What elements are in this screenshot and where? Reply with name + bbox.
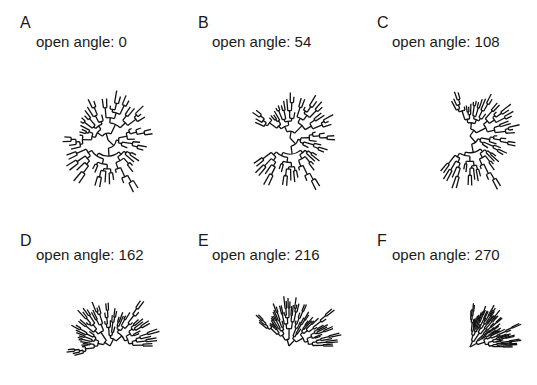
tip-branch: [138, 114, 141, 117]
panel-d: D open angle: 162: [20, 232, 160, 355]
tip-branch: [284, 101, 286, 110]
tip-branch: [129, 128, 132, 129]
tip-branch: [295, 321, 296, 324]
tip-branch: [269, 175, 274, 185]
tip-branch: [66, 160, 76, 166]
internal-branch: [473, 161, 474, 166]
node-arc: [268, 120, 272, 126]
tip-branch: [269, 118, 271, 120]
node-arc: [136, 130, 137, 134]
node-arc: [92, 107, 95, 108]
internal-branch: [291, 316, 292, 322]
internal-branch: [291, 322, 292, 329]
tip-branch: [133, 142, 140, 143]
internal-branch: [120, 105, 124, 114]
internal-branch: [116, 163, 118, 169]
tip-branch: [130, 163, 133, 166]
tip-branch: [79, 132, 85, 134]
internal-branch: [260, 116, 264, 119]
node-arc: [129, 130, 130, 134]
tip-branch: [126, 101, 129, 107]
internal-branch: [321, 337, 329, 339]
panel-label-b: B: [198, 14, 209, 31]
internal-branch: [296, 338, 303, 342]
tip-branch: [496, 178, 501, 186]
internal-branch: [128, 175, 132, 181]
internal-branch: [290, 138, 296, 144]
internal-branch: [310, 110, 317, 117]
internal-branch: [462, 111, 465, 120]
tip-branch: [115, 91, 117, 103]
tip-branch: [314, 143, 321, 145]
tip-branch: [318, 150, 324, 153]
panel-title-f: open angle: 270: [392, 246, 500, 263]
internal-branch: [125, 324, 129, 329]
tip-branch: [83, 308, 89, 316]
internal-branch: [471, 322, 472, 331]
tree-b: [253, 93, 335, 190]
internal-branch: [484, 164, 489, 173]
internal-branch: [123, 116, 127, 121]
internal-branch: [480, 153, 482, 157]
internal-branch: [132, 146, 137, 147]
tip-branch: [115, 169, 116, 172]
internal-branch: [311, 333, 315, 335]
internal-branch: [114, 113, 116, 119]
internal-branch: [476, 108, 479, 117]
internal-branch: [136, 338, 140, 339]
tip-branch: [304, 107, 306, 110]
tip-branch: [67, 351, 75, 352]
panel-e: E open angle: 216: [198, 232, 341, 346]
tip-branch: [124, 316, 126, 319]
internal-branch: [101, 324, 104, 330]
node-arc: [98, 331, 103, 334]
internal-branch: [307, 107, 311, 113]
internal-branch: [82, 339, 92, 341]
internal-branch: [118, 157, 120, 161]
tip-branch: [311, 181, 316, 190]
internal-branch: [95, 331, 98, 334]
tip-branch: [253, 112, 260, 117]
tip-branch: [255, 122, 264, 126]
tip-branch: [466, 164, 467, 172]
internal-branch: [494, 139, 501, 140]
tip-branch: [118, 97, 120, 104]
internal-branch: [303, 115, 307, 120]
internal-branch: [471, 123, 472, 129]
internal-branch: [472, 144, 474, 152]
internal-branch: [308, 328, 313, 332]
tip-branch: [287, 99, 288, 111]
tree-e: [256, 296, 341, 346]
tip-branch: [279, 164, 281, 169]
panel-title-e: open angle: 216: [212, 246, 320, 263]
internal-branch: [98, 343, 104, 344]
internal-branch: [313, 125, 323, 129]
tip-branch: [79, 340, 82, 341]
internal-branch: [448, 155, 455, 164]
tip-branch: [473, 168, 474, 180]
tip-branch: [135, 106, 143, 114]
tip-branch: [105, 321, 106, 324]
internal-branch: [477, 342, 484, 344]
tip-branch: [106, 303, 107, 310]
internal-branch: [479, 159, 481, 165]
tip-branch: [113, 173, 114, 180]
internal-branch: [489, 120, 494, 123]
tip-branch: [494, 145, 501, 148]
internal-branch: [484, 104, 488, 111]
node-arc: [480, 164, 484, 166]
node-arc: [300, 335, 304, 343]
node-arc: [481, 110, 484, 111]
internal-branch: [105, 342, 110, 346]
figure: A open angle: 0 B open angle: 54 C open …: [0, 0, 537, 385]
internal-branch: [495, 131, 506, 132]
node-arc: [101, 170, 106, 171]
internal-branch: [470, 136, 475, 142]
internal-branch: [95, 116, 98, 123]
panel-label-d: D: [20, 232, 32, 249]
internal-branch: [271, 167, 275, 175]
tip-branch: [293, 97, 294, 103]
internal-branch: [295, 126, 302, 134]
internal-branch: [102, 159, 103, 164]
internal-branch: [294, 312, 296, 322]
